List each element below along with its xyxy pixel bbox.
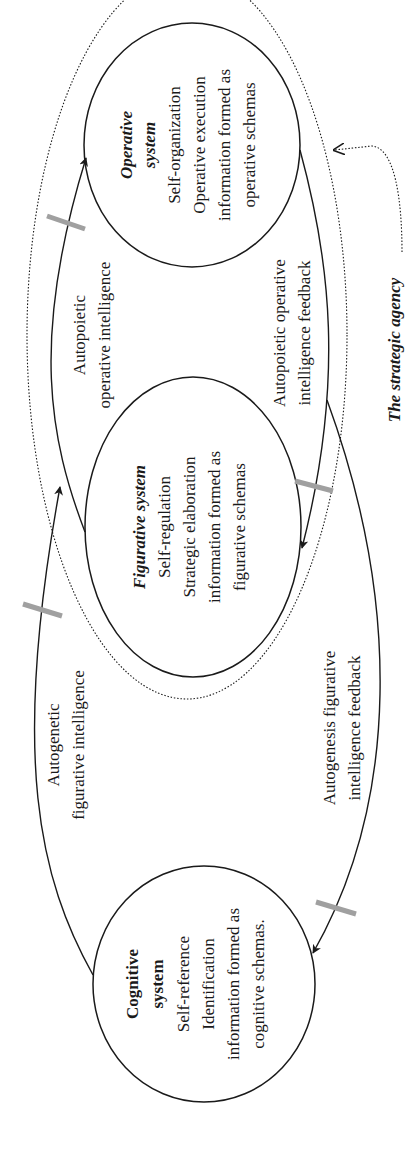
edge-label-line: operative intelligence bbox=[95, 262, 114, 409]
operative-title-line2: system bbox=[140, 122, 159, 169]
label-autopoietic-operative: Autopoietic operative intelligence bbox=[70, 262, 114, 409]
cognitive-line: cognitive schemas. bbox=[249, 919, 268, 1048]
operative-line: operative schemas bbox=[240, 82, 259, 207]
operative-line: Self-organization bbox=[165, 86, 184, 204]
tick-mark bbox=[316, 902, 356, 914]
operative-system-label: Operative system Self-organization Opera… bbox=[117, 69, 259, 221]
diagram-canvas: Operative system Self-organization Opera… bbox=[0, 0, 417, 1152]
edge-label-line: intelligence feedback bbox=[345, 655, 364, 800]
cognitive-title-line2: system bbox=[148, 959, 167, 1008]
edge-label-line: Autopoietic bbox=[70, 294, 89, 375]
tick-mark bbox=[47, 216, 85, 229]
strategic-agency-label: The strategic agency bbox=[385, 277, 404, 422]
label-autogenetic-figurative: Autogenetic figurative intelligence bbox=[44, 670, 88, 820]
figurative-line: information formed as bbox=[205, 451, 224, 603]
tick-mark bbox=[295, 481, 333, 491]
figurative-system-label: Figurative system Self-regulation Strate… bbox=[130, 451, 249, 603]
cognitive-line: Identification bbox=[199, 938, 218, 1030]
operative-line: Operative execution bbox=[190, 76, 209, 214]
strategic-agency-text: The strategic agency bbox=[385, 277, 404, 422]
operative-title-line1: Operative bbox=[117, 111, 136, 179]
edge-label-line: Autogenesis figurative bbox=[320, 651, 339, 805]
label-autogenesis-feedback: Autogenesis figurative intelligence feed… bbox=[320, 651, 364, 805]
edge-label-line: Autogenetic bbox=[44, 703, 63, 787]
figurative-line: Strategic elaboration bbox=[180, 456, 199, 598]
cognitive-line: Self-reference bbox=[174, 936, 193, 1032]
figurative-line: figurative schemas bbox=[230, 463, 249, 591]
figurative-line: Self-regulation bbox=[155, 476, 174, 578]
label-autopoietic-feedback: Autopoietic operative intelligence feedb… bbox=[270, 259, 314, 407]
cognitive-title-line1: Cognitive bbox=[123, 949, 142, 1019]
cognitive-system-label: Cognitive system Self-reference Identifi… bbox=[123, 908, 268, 1060]
operative-line: information formed as bbox=[215, 69, 234, 221]
edge-label-line: Autopoietic operative bbox=[270, 259, 289, 407]
edge-label-line: figurative intelligence bbox=[69, 670, 88, 820]
figurative-title: Figurative system bbox=[130, 465, 149, 590]
edge-label-line: intelligence feedback bbox=[295, 260, 314, 405]
cognitive-line: information formed as bbox=[224, 908, 243, 1060]
strategic-agency-pointer bbox=[334, 146, 402, 252]
